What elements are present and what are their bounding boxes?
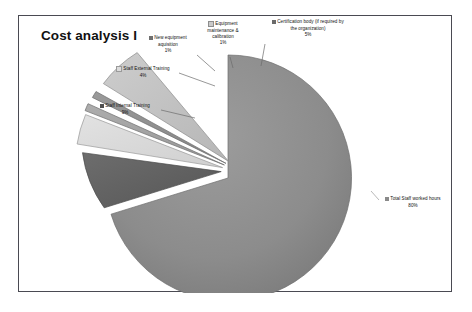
label-equipment-maintenance-pct: 1% — [193, 40, 253, 46]
label-staff-internal-training-name: Staff Internal Training — [105, 103, 150, 108]
label-staff-external-training: Staff External Training 4% — [105, 66, 181, 79]
label-total-staff-worked-hours: Total Staff worked hours 80% — [377, 196, 449, 209]
label-total-staff-worked-hours-name: Total Staff worked hours — [390, 196, 440, 201]
label-certification-body-line1: Certification body (if required by — [277, 19, 344, 24]
legend-marker-total-staff-worked-hours — [385, 197, 388, 200]
label-equipment-maintenance: Equipment maintenance & calibration 1% — [193, 21, 253, 46]
label-equipment-maintenance-line1: Equipment — [215, 21, 237, 26]
label-certification-body-pct: 5% — [249, 32, 367, 38]
label-staff-internal-training-pct: 9% — [87, 110, 163, 116]
pie-chart — [19, 16, 453, 293]
label-staff-external-training-pct: 4% — [105, 73, 181, 79]
legend-marker-staff-internal-training — [100, 104, 103, 107]
leader-line-new-equipment — [197, 55, 215, 71]
label-new-equipment-line1: New equipment — [154, 35, 187, 40]
label-staff-external-training-name: Staff External Training — [123, 66, 169, 71]
label-certification-body: Certification body (if required by the o… — [249, 19, 367, 38]
label-new-equipment-pct: 1% — [135, 48, 201, 54]
chart-frame: Cost analysis I — [18, 15, 452, 292]
label-total-staff-worked-hours-pct: 80% — [377, 203, 449, 209]
legend-marker-staff-external-training — [116, 66, 121, 71]
label-new-equipment-aquisition: New equipment aquisition 1% — [135, 35, 201, 54]
legend-marker-new-equipment-aquisition — [149, 36, 152, 39]
leader-line-external — [179, 73, 215, 86]
label-staff-internal-training: Staff Internal Training 9% — [87, 103, 163, 116]
legend-marker-certification-body — [272, 20, 275, 23]
legend-marker-equipment-maintenance — [208, 21, 213, 26]
